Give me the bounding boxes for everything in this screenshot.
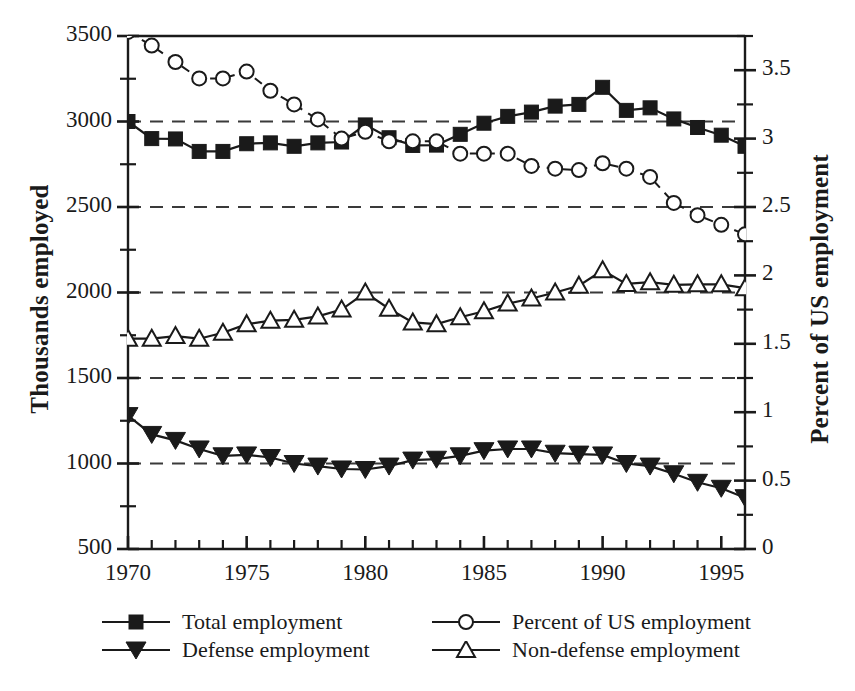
series-non-defense-employment — [119, 261, 754, 345]
y-axis-right-tick-label: 1.5 — [762, 329, 822, 355]
legend-entry[interactable]: Defense employment — [100, 637, 430, 663]
open-triangle-up-marker — [570, 277, 588, 293]
open-triangle-up-marker — [594, 261, 612, 277]
filled-square-marker — [738, 139, 752, 153]
filled-square-marker — [572, 97, 586, 111]
open-circle-marker — [263, 84, 277, 98]
legend-swatch-filled-square — [100, 613, 172, 631]
filled-triangle-down-marker — [142, 426, 162, 443]
open-circle-marker — [453, 147, 467, 161]
series-line — [128, 32, 745, 235]
open-circle-marker — [548, 162, 562, 176]
open-circle-marker — [643, 170, 657, 184]
y-axis-right-title: Percent of US employment — [806, 99, 834, 499]
chart-figure: Thousands employed Percent of US employm… — [0, 0, 855, 691]
open-circle-marker — [287, 97, 301, 111]
y-axis-left-tick-label: 1500 — [20, 363, 112, 389]
filled-square-marker — [453, 127, 467, 141]
open-circle-marker — [382, 134, 396, 148]
open-circle-marker — [145, 39, 159, 53]
legend-swatch-filled-triangle-down — [100, 641, 172, 659]
open-circle-marker — [358, 125, 372, 139]
open-triangle-up-marker — [166, 327, 184, 343]
legend-label: Defense employment — [182, 637, 370, 663]
filled-square-marker — [643, 101, 657, 115]
open-circle-marker — [216, 71, 230, 85]
open-circle-marker — [738, 227, 752, 241]
filled-triangle-down-marker — [735, 490, 755, 507]
y-axis-left-tick-label: 1000 — [20, 449, 112, 475]
filled-square-marker — [667, 112, 681, 126]
y-axis-left-tick-label: 2000 — [20, 278, 112, 304]
filled-triangle-down-marker — [688, 474, 708, 491]
open-circle-marker — [524, 159, 538, 173]
open-circle-marker — [667, 196, 681, 210]
open-circle-marker — [311, 112, 325, 126]
open-circle-marker — [240, 65, 254, 79]
x-axis-tick-label: 1970 — [83, 560, 173, 586]
filled-square-marker — [240, 137, 254, 151]
series-percent-of-us-employment — [121, 25, 752, 241]
filled-triangle-down-marker — [640, 458, 660, 475]
y-axis-right-tick-label: 0.5 — [762, 466, 822, 492]
x-axis-tick-label: 1975 — [202, 560, 292, 586]
y-axis-right-tick-label: 2 — [762, 260, 822, 286]
filled-square-marker — [548, 99, 562, 113]
open-circle-marker — [501, 147, 515, 161]
legend-swatch-open-circle — [430, 613, 502, 631]
filled-square-marker — [287, 139, 301, 153]
filled-square-marker — [129, 615, 143, 629]
y-axis-left-tick-label: 2500 — [20, 192, 112, 218]
x-axis-tick-label: 1990 — [558, 560, 648, 586]
y-axis-right-tick-label: 3 — [762, 124, 822, 150]
open-circle-marker — [192, 71, 206, 85]
chart-legend: Total employmentPercent of US employment… — [100, 608, 780, 664]
open-triangle-up-marker — [333, 301, 351, 317]
open-triangle-up-marker — [380, 300, 398, 316]
legend-entry[interactable]: Non-defense employment — [430, 637, 780, 663]
legend-swatch-open-triangle-up — [430, 641, 502, 659]
filled-square-marker — [596, 80, 610, 94]
open-circle-marker — [714, 218, 728, 232]
filled-triangle-down-marker — [165, 432, 185, 449]
open-triangle-up-marker — [214, 324, 232, 340]
x-axis-tick-label: 1995 — [676, 560, 766, 586]
legend-label: Non-defense employment — [512, 637, 740, 663]
x-axis-tick-label: 1980 — [320, 560, 410, 586]
y-axis-right-tick-label: 0 — [762, 534, 822, 560]
filled-square-marker — [477, 116, 491, 130]
filled-square-marker — [524, 105, 538, 119]
open-circle-marker — [459, 615, 473, 629]
open-circle-marker — [572, 163, 586, 177]
y-axis-right-tick-label: 3.5 — [762, 55, 822, 81]
open-circle-marker — [619, 162, 633, 176]
open-circle-marker — [477, 147, 491, 161]
filled-square-marker — [619, 103, 633, 117]
y-axis-left-tick-label: 500 — [20, 534, 112, 560]
filled-square-marker — [311, 136, 325, 150]
filled-square-marker — [714, 128, 728, 142]
open-triangle-up-marker — [641, 273, 659, 289]
filled-triangle-down-marker — [711, 480, 731, 497]
filled-square-marker — [168, 132, 182, 146]
filled-square-marker — [145, 132, 159, 146]
open-circle-marker — [691, 208, 705, 222]
legend-entry[interactable]: Percent of US employment — [430, 609, 780, 635]
open-circle-marker — [335, 132, 349, 146]
open-circle-marker — [596, 156, 610, 170]
y-axis-left-tick-label: 3500 — [20, 21, 112, 47]
y-axis-right-tick-label: 1 — [762, 397, 822, 423]
legend-label: Total employment — [182, 609, 342, 635]
filled-square-marker — [691, 120, 705, 134]
legend-label: Percent of US employment — [512, 609, 751, 635]
open-triangle-up-marker — [404, 313, 422, 329]
filled-triangle-down-marker — [189, 441, 209, 458]
series-defense-employment — [118, 408, 755, 507]
legend-entry[interactable]: Total employment — [100, 609, 430, 635]
filled-square-marker — [501, 109, 515, 123]
open-circle-marker — [430, 134, 444, 148]
filled-square-marker — [192, 144, 206, 158]
y-axis-left-tick-label: 3000 — [20, 107, 112, 133]
filled-square-marker — [216, 144, 230, 158]
y-axis-right-tick-label: 2.5 — [762, 192, 822, 218]
